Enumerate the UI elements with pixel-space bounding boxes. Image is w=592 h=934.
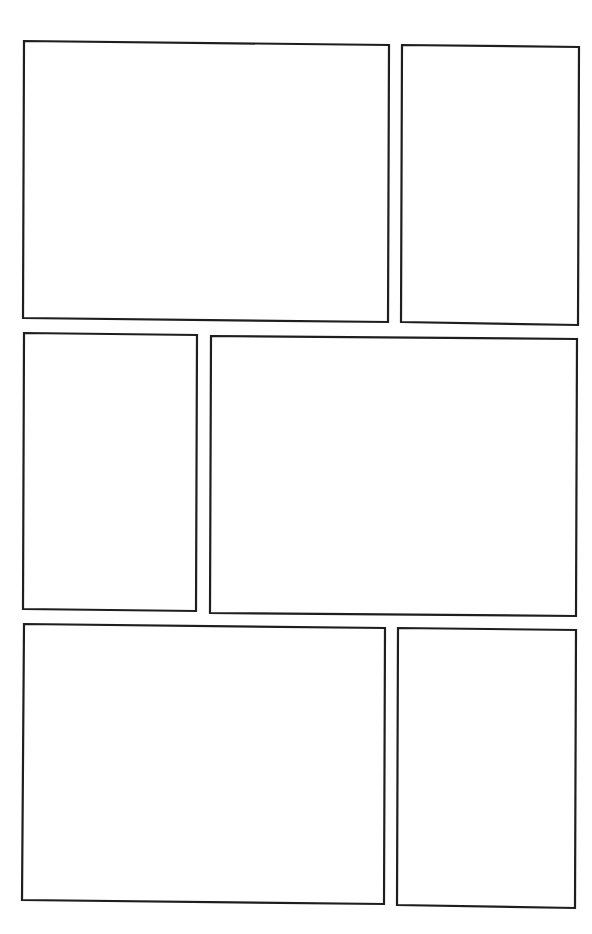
panel-3 bbox=[23, 333, 197, 611]
row-3 bbox=[22, 624, 576, 908]
panel-6 bbox=[397, 628, 576, 908]
panel-5 bbox=[22, 624, 385, 904]
panel-1 bbox=[23, 41, 389, 322]
panel-2 bbox=[401, 45, 579, 325]
row-2 bbox=[23, 333, 577, 616]
panel-4 bbox=[210, 336, 577, 616]
comic-page bbox=[0, 0, 592, 934]
row-1 bbox=[23, 41, 579, 325]
